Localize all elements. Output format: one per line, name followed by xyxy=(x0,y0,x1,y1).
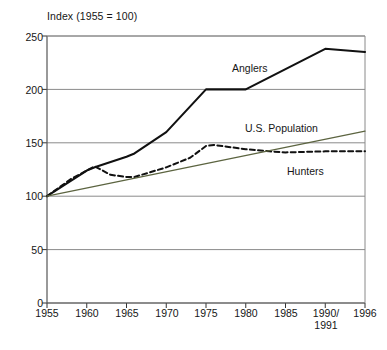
series-line-hunters xyxy=(47,145,365,196)
plot-surface xyxy=(0,0,387,350)
series-line-anglers xyxy=(47,49,365,196)
gridlines-group xyxy=(47,36,365,303)
axis-ticks-group xyxy=(42,36,365,308)
plot-frame xyxy=(47,36,365,303)
series-paths-group xyxy=(47,49,365,196)
series-line-u-s-population xyxy=(47,131,365,196)
index-line-chart: Index (1955 = 100) 250 200 150 100 50 0 … xyxy=(0,0,387,350)
